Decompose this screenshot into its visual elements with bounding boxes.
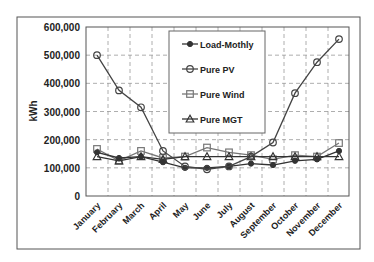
y-tick-label: 600,000 [44, 22, 81, 33]
legend: Load-MothlyPure PVPure WindPure MGT [169, 31, 265, 133]
y-axis-label: kWh [28, 100, 39, 121]
legend-label: Pure MGT [200, 115, 243, 125]
chart: 0100,000200,000300,000400,000500,000600,… [0, 0, 374, 262]
y-tick-label: 0 [74, 191, 80, 202]
legend-label: Pure PV [200, 65, 235, 75]
legend-label: Load-Mothly [200, 40, 254, 50]
legend-label: Pure Wind [200, 90, 244, 100]
y-tick-label: 100,000 [44, 163, 81, 174]
y-tick-label: 200,000 [44, 135, 81, 146]
y-tick-label: 300,000 [44, 107, 81, 118]
y-tick-label: 400,000 [44, 78, 81, 89]
y-tick-label: 500,000 [44, 50, 81, 61]
